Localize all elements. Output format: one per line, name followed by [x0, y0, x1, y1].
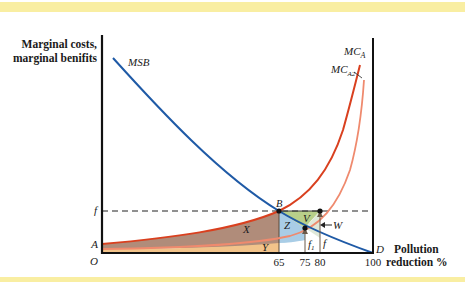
f-label: f — [94, 204, 99, 216]
area-x-label: X — [242, 223, 251, 235]
x-tick-80: 80 — [315, 256, 327, 268]
f-arrow-label: f — [323, 237, 328, 249]
mca-label: MCA — [343, 45, 366, 60]
point-d-label: D — [375, 243, 384, 255]
point-a-label: A — [90, 238, 98, 250]
point-b-dot — [276, 208, 281, 213]
area-z-label: Z — [284, 219, 291, 231]
x-tick-65: 65 — [274, 256, 286, 268]
point-75-dot — [302, 225, 307, 230]
area-w-label: W — [333, 219, 343, 231]
x-axis-label-line2: reduction % — [386, 256, 447, 268]
mca-curve — [102, 65, 360, 244]
w-arrow-head — [320, 222, 325, 228]
f1-arrow-label: f1 — [308, 238, 315, 252]
x-tick-100: 100 — [365, 256, 382, 268]
point-80-dot — [317, 208, 322, 213]
x-tick-75: 75 — [300, 256, 312, 268]
pollution-diagram: Marginal costs, marginal benifits Pollut… — [0, 0, 465, 282]
point-b-label: B — [276, 198, 283, 209]
mca2-label: MCA2 — [330, 63, 356, 78]
x-axis-label-line1: Pollution — [394, 243, 439, 255]
msb-label: MSB — [127, 56, 150, 68]
y-axis-label-line1: Marginal costs, — [22, 38, 98, 51]
y-axis-label-line2: marginal benifits — [13, 52, 98, 65]
origin-label: O — [90, 255, 98, 267]
